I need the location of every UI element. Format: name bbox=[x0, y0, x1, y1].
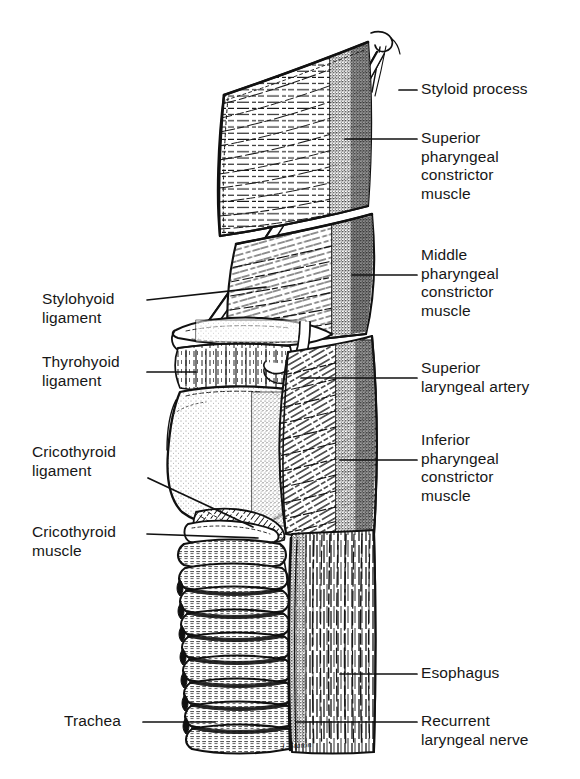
label-trachea: Trachea bbox=[64, 712, 121, 731]
label-thyrohyoid-ligament: Thyrohyoid ligament bbox=[42, 353, 120, 390]
label-styloid-process: Styloid process bbox=[421, 80, 528, 99]
label-recurrent-laryngeal-nerve: Recurrent laryngeal nerve bbox=[421, 712, 528, 749]
inferior-constrictor-shape bbox=[278, 336, 380, 540]
label-middle-pharyngeal-constrictor-muscle: Middle pharyngeal constrictor muscle bbox=[421, 246, 499, 320]
label-stylohyoid-ligament: Stylohyoid ligament bbox=[42, 290, 115, 327]
label-superior-laryngeal-artery: Superior laryngeal artery bbox=[421, 359, 529, 396]
label-inferior-pharyngeal-constrictor-muscle: Inferior pharyngeal constrictor muscle bbox=[421, 431, 499, 505]
illustration-ink bbox=[143, 32, 417, 760]
trachea-shape bbox=[177, 560, 295, 754]
label-cricothyroid-ligament: Cricothyroid ligament bbox=[32, 443, 116, 480]
superior-constrictor-shape bbox=[218, 40, 374, 240]
label-superior-pharyngeal-constrictor-muscle: Superior pharyngeal constrictor muscle bbox=[421, 129, 499, 203]
label-esophagus: Esophagus bbox=[421, 664, 499, 683]
label-cricothyroid-muscle: Cricothyroid muscle bbox=[32, 523, 116, 560]
esophagus-shape bbox=[289, 530, 376, 760]
